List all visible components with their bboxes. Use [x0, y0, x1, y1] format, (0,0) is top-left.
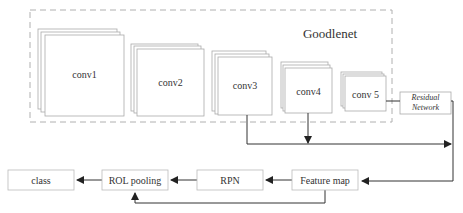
class-label: class [8, 170, 74, 190]
residual-network-label: Residual Network [400, 92, 451, 114]
feature-map-label: Feature map [292, 170, 358, 190]
residual-line2: Network [412, 103, 439, 113]
conv5-label: conv 5 [345, 87, 386, 101]
conv2-label: conv2 [137, 75, 204, 89]
conv4-label: conv4 [285, 84, 332, 98]
conv1-label: conv1 [45, 67, 124, 81]
rol-pooling-label: ROL pooling [102, 170, 168, 190]
rpn-label: RPN [197, 170, 263, 190]
residual-line1: Residual [412, 93, 440, 103]
conv3-label: conv3 [218, 78, 272, 92]
goodlenet-label: Goodlenet [290, 26, 370, 42]
